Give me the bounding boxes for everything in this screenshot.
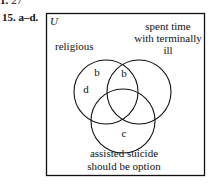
circle-spent-time	[107, 60, 171, 124]
set-label-spent-time-line1: spent time	[145, 20, 191, 32]
set-label-spent-time-line3: ill	[163, 44, 172, 56]
universe-label: U	[50, 15, 59, 27]
set-label-assisted-line1: assisted suicide	[90, 147, 158, 159]
set-label-assisted-line2: should be option	[87, 160, 161, 172]
venn-diagram: U religious spent time with terminally i…	[0, 0, 216, 185]
set-label-spent-time-line2: with terminally	[134, 32, 202, 44]
region-label-b-overlap: b	[121, 67, 127, 79]
region-label-d: d	[83, 83, 89, 95]
set-label-religious: religious	[55, 40, 94, 52]
circle-assisted-suicide	[91, 89, 155, 153]
region-label-c: c	[122, 127, 127, 139]
region-label-b-left: b	[94, 66, 100, 78]
